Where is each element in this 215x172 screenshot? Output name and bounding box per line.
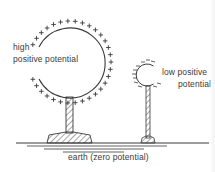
- earth-label: earth (zero potential): [68, 152, 149, 162]
- low-potential-label-line1: low positive: [162, 67, 207, 77]
- high-potential-label-line1: high: [13, 42, 29, 52]
- small-support-post: [141, 86, 155, 143]
- small-sphere: [136, 64, 153, 86]
- page-edge-shadow: [209, 0, 215, 172]
- earth-ground: [16, 143, 209, 152]
- low-potential-label-line2: potential: [178, 79, 211, 89]
- large-support-post: [47, 97, 92, 143]
- high-potential-label-line2: positive potential: [13, 54, 78, 64]
